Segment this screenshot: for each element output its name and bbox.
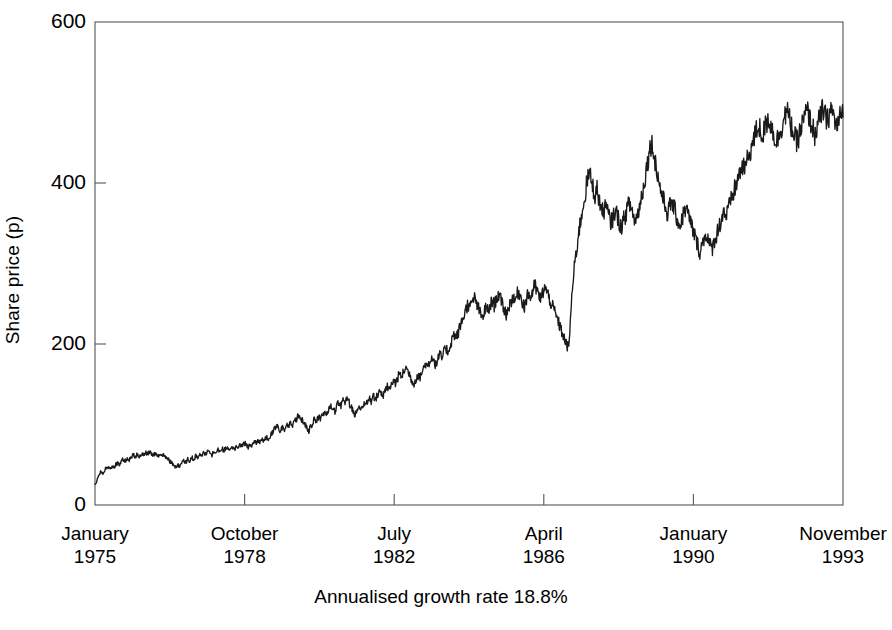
x-tick-year: 1993 bbox=[763, 545, 892, 568]
x-tick-month: April bbox=[464, 522, 624, 545]
share-price-line bbox=[95, 100, 843, 485]
x-tick-label: November1993 bbox=[763, 522, 892, 568]
y-tick-label-text: 600 bbox=[16, 10, 86, 31]
x-tick-month: October bbox=[165, 522, 325, 545]
y-tick-label-text: 0 bbox=[16, 493, 86, 514]
y-tick-label-text: 400 bbox=[16, 171, 86, 192]
chart-subtitle: Annualised growth rate 18.8% bbox=[0, 586, 882, 608]
y-tick-label-text: 200 bbox=[16, 332, 86, 353]
x-tick-month: July bbox=[314, 522, 474, 545]
x-tick-year: 1978 bbox=[165, 545, 325, 568]
x-tick-year: 1986 bbox=[464, 545, 624, 568]
x-tick-month: January bbox=[15, 522, 175, 545]
x-tick-year: 1975 bbox=[15, 545, 175, 568]
x-tick-year: 1990 bbox=[613, 545, 773, 568]
x-tick-label: October1978 bbox=[165, 522, 325, 568]
x-tick-label: April1986 bbox=[464, 522, 624, 568]
x-tick-month: November bbox=[763, 522, 892, 545]
x-tick-year: 1982 bbox=[314, 545, 474, 568]
x-tick-label: January1990 bbox=[613, 522, 773, 568]
x-tick-label: January1975 bbox=[15, 522, 175, 568]
plot-frame bbox=[95, 22, 843, 505]
x-tick-label: July1982 bbox=[314, 522, 474, 568]
axis-ticks bbox=[95, 183, 693, 505]
y-axis-title: Share price (p) bbox=[2, 170, 24, 390]
x-tick-month: January bbox=[613, 522, 773, 545]
